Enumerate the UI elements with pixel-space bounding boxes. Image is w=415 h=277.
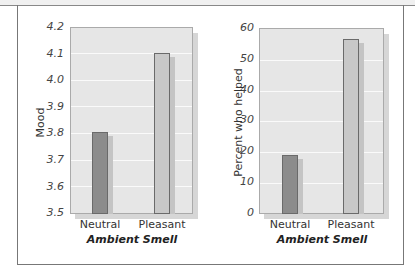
bar-pleasant — [343, 39, 359, 214]
y-tick: 4.1 — [36, 47, 64, 60]
x-category: Pleasant — [321, 218, 381, 231]
y-axis-label: Percent who helped — [232, 63, 245, 183]
gridline — [260, 152, 383, 153]
bar-neutral — [92, 132, 108, 214]
gridline — [260, 91, 383, 92]
y-axis-label: Mood — [34, 103, 47, 143]
x-category: Neutral — [260, 218, 320, 231]
bar-pleasant — [154, 53, 170, 214]
y-tick: 0 — [226, 206, 254, 219]
gridline — [260, 60, 383, 61]
y-tick: 3.5 — [36, 206, 64, 219]
y-tick: 4.2 — [36, 20, 64, 33]
gridline — [260, 183, 383, 184]
y-tick: 4.0 — [36, 73, 64, 86]
bar-neutral — [282, 155, 298, 214]
plot-area — [259, 28, 384, 214]
y-tick: 3.6 — [36, 180, 64, 193]
gridline — [260, 121, 383, 122]
y-tick: 3.7 — [36, 153, 64, 166]
y-tick: 60 — [226, 21, 254, 34]
gridline — [71, 53, 192, 54]
x-axis-label: Ambient Smell — [72, 233, 192, 246]
x-category: Pleasant — [132, 218, 192, 231]
x-axis-label: Ambient Smell — [262, 233, 382, 246]
x-category: Neutral — [70, 218, 130, 231]
